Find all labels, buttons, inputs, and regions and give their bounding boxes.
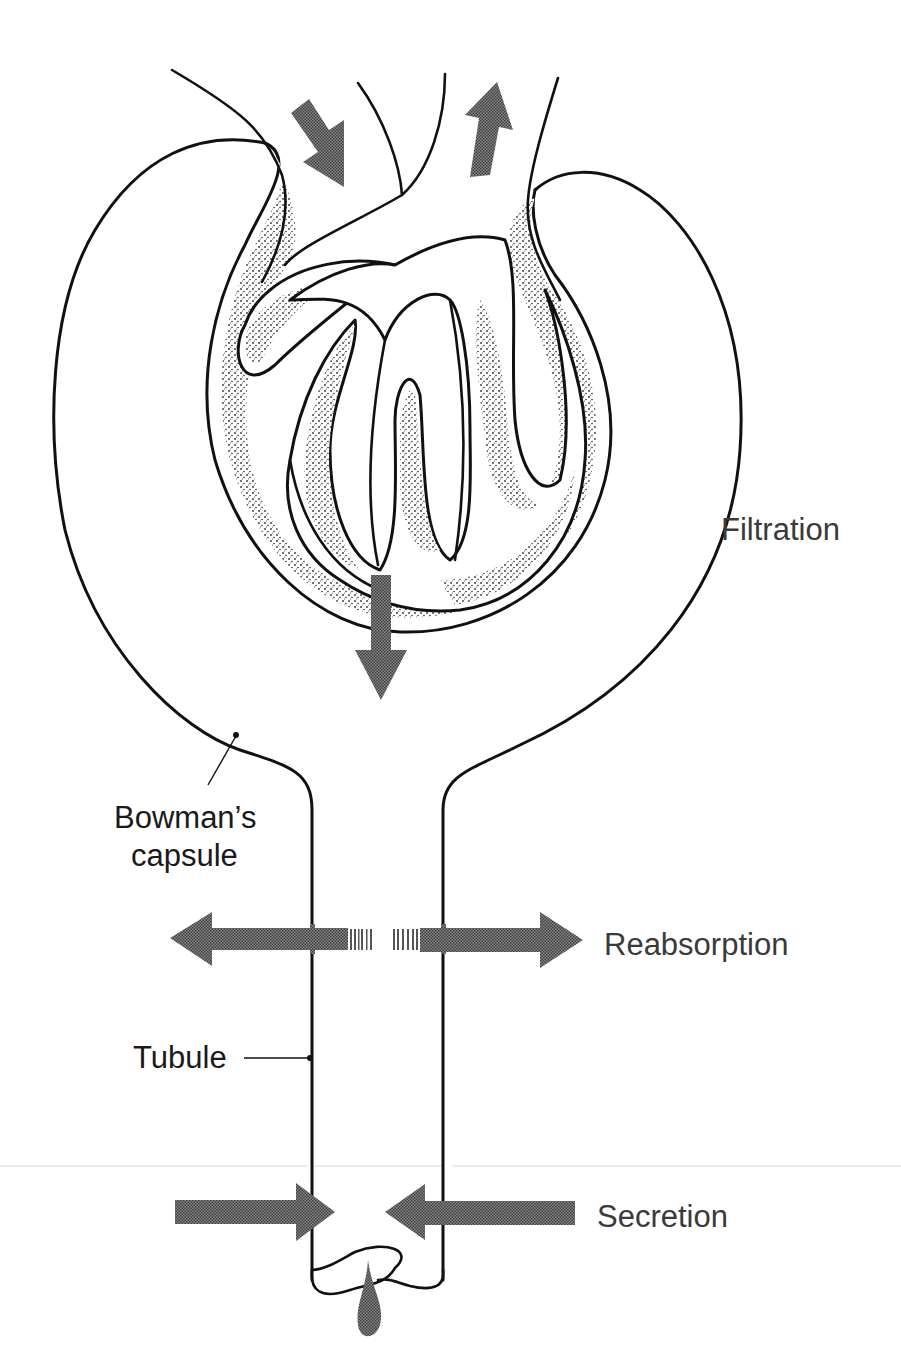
secretion-label: Secretion (597, 1199, 728, 1234)
bowmans-leader-dot (233, 732, 239, 738)
reabsorption-arrow (170, 912, 583, 968)
tubule-opening (312, 1247, 402, 1294)
filtration-label: Filtration (721, 512, 840, 547)
secretion-arrows (175, 1183, 575, 1241)
tubule-leader-dot (307, 1055, 313, 1061)
reabsorption-label: Reabsorption (604, 927, 788, 962)
urine-droplet (357, 1260, 381, 1336)
tubule-opening-right (378, 1270, 443, 1288)
bowmans-capsule-label-line1: Bowman’s (114, 800, 256, 835)
efferent-outflow-arrow (465, 82, 513, 177)
bowmans-capsule-label-line2: capsule (131, 838, 238, 873)
tubule-label: Tubule (133, 1040, 227, 1075)
nephron-diagram: Filtration Bowman’s capsule Reabsorption… (0, 0, 901, 1372)
